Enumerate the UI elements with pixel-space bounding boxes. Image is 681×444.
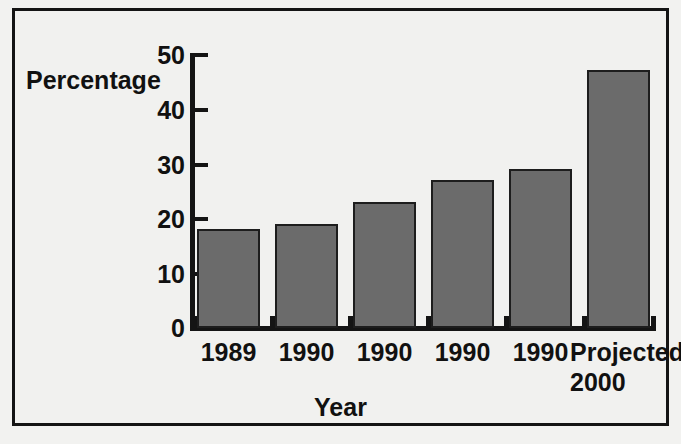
bar-chart-figure: Percentage 50 40 30 20 10 0 1989 1990 19… <box>0 0 681 444</box>
x-axis-label-projected-2000: Projected 2000 <box>570 337 670 397</box>
bar-1989 <box>197 229 260 328</box>
y-axis-label-30: 30 <box>140 151 185 180</box>
bar-1990-a <box>275 224 338 328</box>
x-axis-label-1990-c: 1990 <box>422 337 503 367</box>
x-axis-title: Year <box>0 393 681 422</box>
y-axis-tick-20 <box>195 217 208 221</box>
x-axis-label-1990-d: 1990 <box>500 337 581 367</box>
y-axis-label-50: 50 <box>140 41 185 70</box>
y-axis-label-20: 20 <box>140 205 185 234</box>
bar-1990-b <box>353 202 416 328</box>
bar-projected-2000 <box>587 70 650 328</box>
y-axis-title: Percentage <box>26 66 161 95</box>
y-axis-line <box>190 53 195 330</box>
y-axis-tick-50 <box>195 53 208 57</box>
x-axis-tick-end <box>651 316 656 328</box>
x-axis-label-1989: 1989 <box>188 337 269 367</box>
y-axis-label-40: 40 <box>140 96 185 125</box>
x-axis-label-1990-b: 1990 <box>344 337 425 367</box>
y-axis-label-0: 0 <box>140 314 185 343</box>
y-axis-tick-40 <box>195 108 208 112</box>
y-axis-tick-30 <box>195 163 208 167</box>
x-axis-label-1990-a: 1990 <box>266 337 347 367</box>
bar-1990-d <box>509 169 572 328</box>
bar-1990-c <box>431 180 494 328</box>
y-axis-label-10: 10 <box>140 260 185 289</box>
